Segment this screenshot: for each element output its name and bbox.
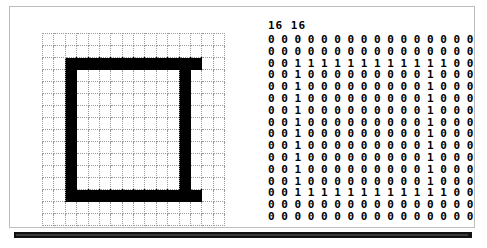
pixel-cell[interactable] (122, 166, 133, 178)
pixel-cell[interactable] (202, 142, 213, 154)
pixel-cell[interactable] (156, 214, 167, 226)
pixel-cell[interactable] (43, 82, 54, 94)
pixel-cell[interactable] (43, 142, 54, 154)
pixel-cell[interactable] (134, 106, 145, 118)
pixel-cell[interactable] (122, 214, 133, 226)
pixel-cell[interactable] (77, 190, 88, 202)
pixel-cell[interactable] (202, 214, 213, 226)
pixel-cell[interactable] (213, 154, 224, 166)
pixel-cell[interactable] (88, 214, 99, 226)
pixel-cell[interactable] (65, 94, 76, 106)
pixel-cell[interactable] (145, 142, 156, 154)
pixel-cell[interactable] (111, 82, 122, 94)
pixel-cell[interactable] (156, 70, 167, 82)
pixel-cell[interactable] (168, 166, 179, 178)
pixel-cell[interactable] (43, 58, 54, 70)
pixel-cell[interactable] (54, 82, 65, 94)
pixel-cell[interactable] (202, 58, 213, 70)
pixel-cell[interactable] (145, 82, 156, 94)
pixel-cell[interactable] (190, 106, 201, 118)
pixel-cell[interactable] (88, 94, 99, 106)
pixel-cell[interactable] (168, 214, 179, 226)
pixel-cell[interactable] (190, 190, 201, 202)
pixel-cell[interactable] (77, 58, 88, 70)
pixel-cell[interactable] (65, 118, 76, 130)
pixel-cell[interactable] (122, 34, 133, 46)
pixel-cell[interactable] (54, 118, 65, 130)
pixel-cell[interactable] (43, 214, 54, 226)
pixel-cell[interactable] (77, 142, 88, 154)
pixel-cell[interactable] (213, 178, 224, 190)
pixel-cell[interactable] (202, 94, 213, 106)
pixel-cell[interactable] (156, 58, 167, 70)
pixel-cell[interactable] (168, 82, 179, 94)
pixel-cell[interactable] (54, 154, 65, 166)
pixel-cell[interactable] (190, 142, 201, 154)
pixel-cell[interactable] (134, 34, 145, 46)
pixel-cell[interactable] (88, 202, 99, 214)
pixel-cell[interactable] (122, 142, 133, 154)
pixel-cell[interactable] (54, 130, 65, 142)
pixel-cell[interactable] (213, 214, 224, 226)
pixel-cell[interactable] (190, 70, 201, 82)
pixel-cell[interactable] (65, 34, 76, 46)
pixel-cell[interactable] (43, 154, 54, 166)
pixel-cell[interactable] (99, 70, 110, 82)
pixel-cell[interactable] (179, 82, 190, 94)
pixel-cell[interactable] (111, 94, 122, 106)
pixel-cell[interactable] (54, 106, 65, 118)
pixel-cell[interactable] (54, 190, 65, 202)
pixel-cell[interactable] (77, 214, 88, 226)
pixel-cell[interactable] (122, 178, 133, 190)
pixel-cell[interactable] (179, 202, 190, 214)
pixel-cell[interactable] (213, 34, 224, 46)
pixel-cell[interactable] (134, 214, 145, 226)
pixel-cell[interactable] (43, 202, 54, 214)
pixel-cell[interactable] (43, 190, 54, 202)
pixel-cell[interactable] (88, 178, 99, 190)
pixel-cell[interactable] (77, 46, 88, 58)
pixel-cell[interactable] (202, 82, 213, 94)
pixel-cell[interactable] (179, 190, 190, 202)
pixel-cell[interactable] (190, 58, 201, 70)
pixel-cell[interactable] (65, 214, 76, 226)
pixel-cell[interactable] (213, 46, 224, 58)
pixel-cell[interactable] (88, 34, 99, 46)
pixel-cell[interactable] (77, 82, 88, 94)
pixel-cell[interactable] (54, 94, 65, 106)
pixel-cell[interactable] (190, 34, 201, 46)
pixel-cell[interactable] (156, 190, 167, 202)
pixel-cell[interactable] (145, 70, 156, 82)
pixel-cell[interactable] (156, 46, 167, 58)
pixel-cell[interactable] (111, 70, 122, 82)
pixel-cell[interactable] (202, 130, 213, 142)
pixel-cell[interactable] (168, 58, 179, 70)
pixel-cell[interactable] (156, 34, 167, 46)
pixel-cell[interactable] (111, 130, 122, 142)
pixel-cell[interactable] (134, 142, 145, 154)
pixel-cell[interactable] (122, 118, 133, 130)
pixel-cell[interactable] (145, 58, 156, 70)
pixel-cell[interactable] (54, 214, 65, 226)
pixel-cell[interactable] (77, 202, 88, 214)
pixel-cell[interactable] (54, 34, 65, 46)
pixel-cell[interactable] (213, 130, 224, 142)
pixel-cell[interactable] (202, 46, 213, 58)
pixel-cell[interactable] (168, 142, 179, 154)
pixel-cell[interactable] (43, 166, 54, 178)
pixel-cell[interactable] (202, 178, 213, 190)
pixel-cell[interactable] (99, 130, 110, 142)
pixel-cell[interactable] (213, 70, 224, 82)
pixel-cell[interactable] (168, 46, 179, 58)
pixel-cell[interactable] (77, 130, 88, 142)
pixel-cell[interactable] (179, 178, 190, 190)
pixel-cell[interactable] (156, 142, 167, 154)
pixel-cell[interactable] (65, 178, 76, 190)
pixel-cell[interactable] (111, 154, 122, 166)
pixel-cell[interactable] (145, 34, 156, 46)
pixel-cell[interactable] (99, 202, 110, 214)
pixel-cell[interactable] (111, 190, 122, 202)
pixel-cell[interactable] (65, 46, 76, 58)
pixel-cell[interactable] (168, 130, 179, 142)
pixel-cell[interactable] (179, 154, 190, 166)
